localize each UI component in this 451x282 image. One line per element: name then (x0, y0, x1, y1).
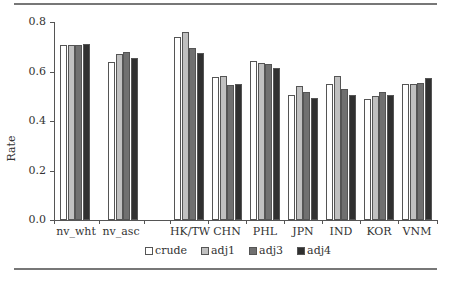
bar-adj3 (265, 64, 272, 220)
bar-crude (108, 62, 115, 220)
x-tick-label: nv_asc (98, 226, 144, 238)
legend-label: adj4 (307, 245, 331, 257)
x-tick (54, 220, 55, 224)
y-axis (54, 22, 55, 221)
bar-adj4 (311, 98, 318, 220)
legend-swatch (297, 247, 305, 255)
bar-adj1 (296, 86, 303, 220)
bar-crude (60, 45, 67, 220)
bar-adj1 (410, 84, 417, 220)
bar-adj1 (258, 63, 265, 220)
x-tick (208, 220, 209, 224)
legend-item-crude: crude (145, 245, 187, 257)
legend-swatch (201, 247, 209, 255)
x-tick (170, 220, 171, 224)
bar-adj1 (220, 76, 227, 220)
y-tick (50, 22, 54, 23)
legend: crudeadj1adj3adj4 (145, 245, 331, 257)
x-tick (322, 220, 323, 224)
bar-adj3 (189, 48, 196, 220)
x-tick (284, 220, 285, 224)
bar-adj3 (75, 45, 82, 220)
x-tick (246, 220, 247, 224)
y-tick-label: 0.4 (16, 115, 46, 127)
y-tick (50, 121, 54, 122)
bar-adj1 (116, 54, 123, 220)
x-tick (99, 220, 100, 224)
bar-adj4 (273, 68, 280, 220)
bar-adj1 (68, 45, 75, 220)
bar-adj1 (372, 96, 379, 220)
bar-adj3 (303, 92, 310, 220)
y-tick-label: 0.8 (16, 16, 46, 28)
bar-crude (212, 77, 219, 220)
x-tick (360, 220, 361, 224)
legend-swatch (249, 247, 257, 255)
bar-crude (174, 37, 181, 220)
bar-crude (402, 84, 409, 220)
bar-adj1 (334, 76, 341, 220)
bar-adj4 (197, 53, 204, 220)
x-tick (144, 220, 145, 224)
bar-adj3 (341, 89, 348, 220)
y-tick-label: 0.6 (16, 66, 46, 78)
legend-label: adj1 (211, 245, 235, 257)
y-tick-label: 0.0 (16, 214, 46, 226)
legend-item-adj1: adj1 (201, 245, 235, 257)
bar-crude (326, 84, 333, 220)
bar-crude (250, 61, 257, 220)
y-tick (50, 171, 54, 172)
bar-adj4 (83, 44, 90, 220)
x-tick-label: nv_wht (53, 226, 99, 238)
bar-adj3 (379, 92, 386, 220)
y-tick-label: 0.2 (16, 165, 46, 177)
bar-crude (288, 95, 295, 220)
bottom-rule (14, 268, 437, 270)
bar-adj4 (349, 95, 356, 220)
bar-adj3 (417, 83, 424, 220)
bar-adj1 (182, 32, 189, 220)
bar-adj4 (235, 84, 242, 220)
top-rule (14, 3, 437, 5)
legend-label: adj3 (259, 245, 283, 257)
x-tick (437, 220, 438, 224)
y-tick (50, 72, 54, 73)
x-tick (398, 220, 399, 224)
y-axis-title: Rate (5, 135, 18, 161)
legend-item-adj4: adj4 (297, 245, 331, 257)
bar-crude (364, 99, 371, 220)
bar-adj4 (131, 58, 138, 220)
x-tick-label: VNM (394, 226, 440, 238)
bar-adj3 (123, 52, 130, 220)
legend-swatch (145, 247, 153, 255)
bar-adj4 (425, 78, 432, 220)
legend-item-adj3: adj3 (249, 245, 283, 257)
bar-adj3 (227, 85, 234, 220)
legend-label: crude (155, 245, 187, 257)
bar-adj4 (387, 95, 394, 220)
